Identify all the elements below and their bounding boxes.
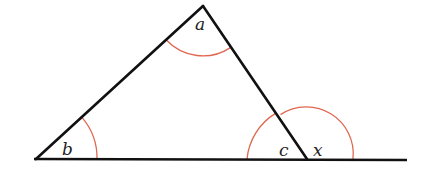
angle-arc-a <box>166 40 230 56</box>
angle-arc-c <box>247 113 276 159</box>
angle-arc-b <box>82 117 97 159</box>
side-ab <box>36 6 203 159</box>
side-ac <box>203 6 307 159</box>
label-b: b <box>62 139 73 159</box>
label-a: a <box>195 14 205 34</box>
triangle-diagram: a b c x <box>0 0 426 177</box>
label-c: c <box>279 140 289 160</box>
baseline-extended <box>34 159 407 160</box>
label-x: x <box>313 140 323 160</box>
